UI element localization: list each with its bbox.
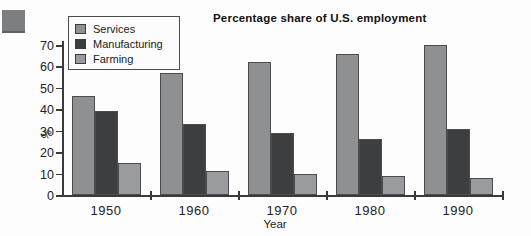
legend-swatch-icon [75,39,86,49]
bar-services-1950 [72,96,95,195]
x-tick [502,191,504,200]
legend-item-services: Services [75,21,173,36]
y-tick [56,45,62,47]
legend-label: Manufacturing [93,38,163,50]
y-tick-label: 10 [28,169,54,181]
x-axis [56,195,504,197]
legend-swatch-icon [75,24,86,34]
legend-item-farming: Farming [75,51,173,66]
x-axis-label: Year [235,218,315,230]
y-tick [56,88,62,90]
bar-services-1970 [248,62,271,195]
bar-manufacturing-1990 [447,129,470,195]
y-tick-label: 50 [28,83,54,95]
bar-manufacturing-1970 [271,133,294,195]
bar-manufacturing-1980 [359,139,382,195]
y-tick-label: 40 [28,104,54,116]
page-tab-decoration [2,10,25,33]
x-tick-label: 1950 [76,203,136,218]
bar-manufacturing-1960 [183,124,206,195]
x-tick [150,191,152,200]
bar-farming-1950 [118,163,141,195]
x-tick [238,191,240,200]
y-tick [56,195,62,197]
y-tick-label: 20 [28,147,54,159]
bar-farming-1970 [294,174,317,195]
chart-legend: ServicesManufacturingFarming [68,16,180,70]
y-tick [56,66,62,68]
y-tick [56,109,62,111]
bar-farming-1980 [382,176,405,195]
x-tick [326,191,328,200]
legend-swatch-icon [75,54,86,64]
x-tick-label: 1970 [252,203,312,218]
bar-services-1960 [160,73,183,195]
scanned-figure: Percentage share of U.S. employment Serv… [0,0,531,236]
x-tick-label: 1990 [428,203,488,218]
bar-farming-1990 [470,178,493,195]
bar-farming-1960 [206,171,229,195]
y-tick-label: 0 [28,190,54,202]
x-tick [414,191,416,200]
bar-services-1990 [424,45,447,195]
bar-services-1980 [336,54,359,195]
bar-manufacturing-1950 [95,111,118,195]
x-tick-label: 1960 [164,203,224,218]
y-tick [56,131,62,133]
y-tick [56,174,62,176]
legend-label: Farming [93,53,133,65]
legend-label: Services [93,23,135,35]
y-tick-label: 70 [28,40,54,52]
chart-title: Percentage share of U.S. employment [213,12,426,24]
x-tick-label: 1980 [340,203,400,218]
y-axis [62,41,64,197]
legend-item-manufacturing: Manufacturing [75,36,173,51]
y-tick [56,152,62,154]
y-tick-label: 60 [28,61,54,73]
